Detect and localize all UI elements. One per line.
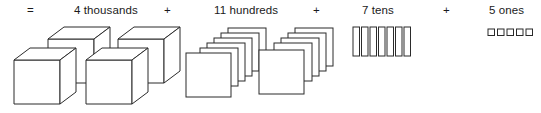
base-ten-blocks-figure: = 4 thousands + 11 hundreds + 7 tens + 5… — [0, 0, 541, 113]
ones-block-group — [488, 29, 533, 36]
hundreds-stack-right — [259, 28, 333, 94]
thousands-block-group — [14, 27, 180, 104]
ten-rod — [362, 27, 369, 56]
hundred-flat — [259, 50, 304, 94]
ten-rod — [353, 27, 360, 56]
blocks-illustration — [0, 0, 541, 113]
one-unit — [498, 29, 505, 36]
ten-rod — [396, 27, 403, 56]
ten-rod — [404, 27, 411, 56]
hundreds-stack-left — [186, 28, 266, 97]
one-unit — [507, 29, 514, 36]
thousand-cube — [14, 48, 76, 104]
one-unit — [517, 29, 524, 36]
ten-rod — [387, 27, 394, 56]
one-unit — [526, 29, 533, 36]
one-unit — [488, 29, 495, 36]
hundreds-block-group — [186, 28, 333, 97]
ten-rod — [370, 27, 377, 56]
ten-rod — [379, 27, 386, 56]
hundred-flat — [186, 53, 231, 97]
tens-block-group — [353, 27, 411, 56]
thousand-cube — [86, 48, 148, 104]
